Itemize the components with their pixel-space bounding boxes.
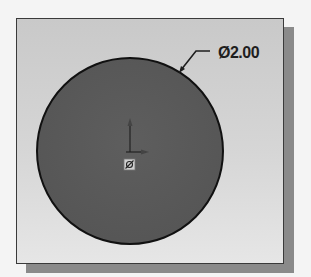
- figure-stage: Ø2.00: [0, 0, 311, 277]
- sketch-canvas: Ø2.00: [0, 0, 311, 277]
- dimension-leader-line: [181, 51, 210, 70]
- origin-point-icon[interactable]: [124, 159, 135, 170]
- diameter-dimension-label[interactable]: Ø2.00: [218, 44, 260, 61]
